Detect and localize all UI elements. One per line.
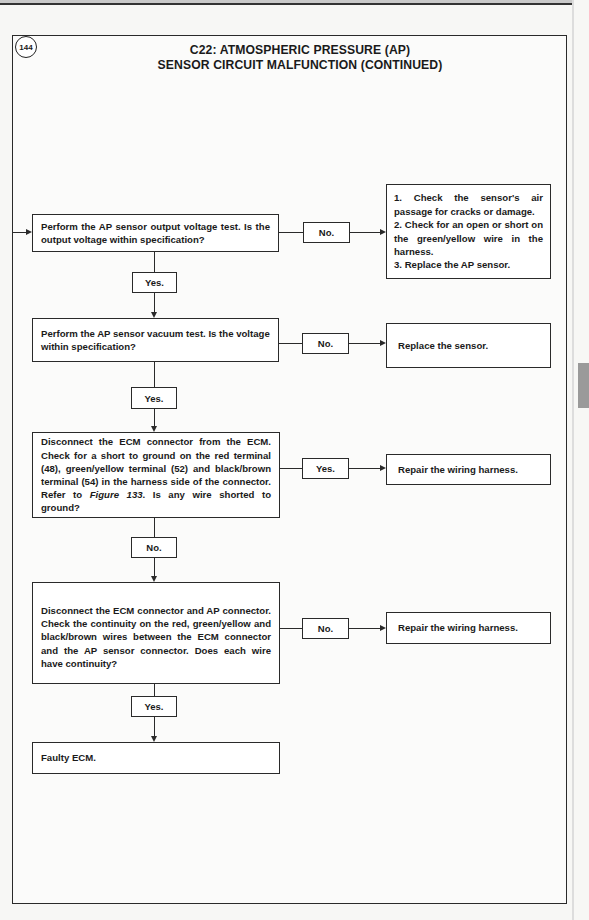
step-5-box: Faulty ECM. bbox=[32, 742, 280, 774]
connector bbox=[154, 717, 155, 736]
entry-connector bbox=[13, 232, 27, 233]
connector bbox=[349, 468, 380, 469]
connector bbox=[154, 684, 155, 696]
chapter-thumb-tab bbox=[578, 363, 589, 408]
step-1-result-line-3: 3. Replace the AP sensor. bbox=[394, 258, 543, 271]
step-3-no-label: No. bbox=[131, 537, 177, 558]
step-2-result-text: Replace the sensor. bbox=[398, 339, 539, 352]
connector bbox=[279, 343, 302, 344]
step-3-box: Disconnect the ECM connector from the EC… bbox=[32, 432, 280, 518]
figure-number-badge: 144 bbox=[15, 36, 37, 58]
figure-title-line1: C22: ATMOSPHERIC PRESSURE (AP) bbox=[60, 43, 540, 57]
step-1-no-label: No. bbox=[303, 222, 350, 243]
connector bbox=[154, 362, 155, 387]
step-4-result-box: Repair the wiring harness. bbox=[386, 612, 551, 644]
connector bbox=[154, 518, 155, 537]
connector bbox=[154, 409, 155, 426]
step-1-result-line-1: 1. Check the sensor's air passage for cr… bbox=[394, 191, 543, 218]
figure-title-line2: SENSOR CIRCUIT MALFUNCTION (CONTINUED) bbox=[60, 58, 540, 72]
step-4-text: Disconnect the ECM connector and AP conn… bbox=[41, 604, 271, 670]
figure-reference-link[interactable]: Figure 133 bbox=[90, 489, 143, 500]
step-1-text: Perform the AP sensor output voltage tes… bbox=[41, 220, 270, 246]
connector bbox=[280, 628, 302, 629]
header-rule bbox=[0, 3, 572, 5]
step-2-text: Perform the AP sensor vacuum test. Is th… bbox=[41, 327, 270, 353]
connector bbox=[349, 343, 380, 344]
step-2-result-box: Replace the sensor. bbox=[386, 323, 551, 368]
step-3-text: Disconnect the ECM connector from the EC… bbox=[41, 435, 271, 514]
step-1-yes-label: Yes. bbox=[132, 272, 177, 293]
connector bbox=[350, 232, 380, 233]
step-4-result-text: Repair the wiring harness. bbox=[398, 621, 539, 634]
step-2-box: Perform the AP sensor vacuum test. Is th… bbox=[32, 318, 279, 362]
step-1-result-line-2: 2. Check for an open or short on the gre… bbox=[394, 218, 543, 258]
connector bbox=[349, 628, 380, 629]
step-2-yes-label: Yes. bbox=[131, 387, 177, 409]
step-5-text: Faulty ECM. bbox=[41, 751, 271, 764]
page-edge bbox=[572, 0, 574, 920]
step-4-box: Disconnect the ECM connector and AP conn… bbox=[32, 582, 280, 684]
step-4-no-label: No. bbox=[302, 618, 349, 639]
connector bbox=[280, 468, 302, 469]
step-2-no-label: No. bbox=[302, 333, 349, 354]
step-3-result-text: Repair the wiring harness. bbox=[398, 463, 539, 476]
step-3-yes-label: Yes. bbox=[302, 458, 349, 479]
connector bbox=[154, 293, 155, 312]
connector bbox=[154, 252, 155, 272]
step-3-result-box: Repair the wiring harness. bbox=[386, 454, 551, 485]
connector bbox=[154, 558, 155, 576]
step-4-yes-label: Yes. bbox=[131, 696, 177, 717]
step-1-box: Perform the AP sensor output voltage tes… bbox=[32, 214, 279, 252]
connector bbox=[279, 232, 303, 233]
step-1-result-box: 1. Check the sensor's air passage for cr… bbox=[386, 184, 551, 279]
